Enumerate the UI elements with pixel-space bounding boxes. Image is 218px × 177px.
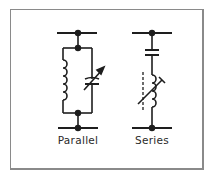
parallel-circuit	[57, 31, 104, 131]
arrowhead-icon	[97, 67, 104, 74]
series-label: Series	[135, 134, 169, 146]
inductor-icon	[152, 75, 156, 107]
parallel-label: Parallel	[58, 134, 99, 146]
series-circuit	[132, 31, 172, 131]
circuit-diagram	[0, 0, 218, 177]
variable-arrow-icon	[138, 80, 162, 104]
inductor-icon	[63, 60, 67, 100]
